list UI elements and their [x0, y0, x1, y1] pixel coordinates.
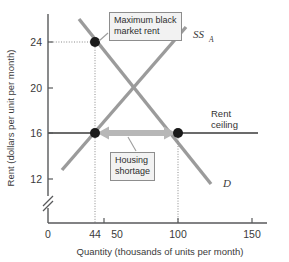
- y-tick-label-20: 20: [30, 82, 42, 94]
- y-tick-label-16: 16: [30, 127, 42, 139]
- point-quantity-demanded-100: [173, 128, 183, 138]
- x-tick-label-150: 150: [243, 228, 261, 240]
- x-tick-label-44: 44: [89, 228, 101, 240]
- supply-curve-label-subscript: A: [208, 35, 214, 44]
- rent-ceiling-label: Rent ceiling: [211, 108, 238, 131]
- demand-curve-label: D: [222, 177, 231, 189]
- y-axis-title: Rent (dollars per unit per month): [5, 50, 16, 187]
- leader-line-max-black-market: [99, 33, 108, 41]
- callout-housing-shortage: Housing shortage: [110, 152, 155, 181]
- rent-ceiling-chart: 24 20 16 12 0 44 50 100 150 Quantity (th…: [0, 0, 289, 262]
- callout-max-line2: market rent: [114, 26, 177, 37]
- rent-ceiling-label-line1: Rent: [211, 108, 238, 119]
- y-tick-label-24: 24: [30, 36, 42, 48]
- supply-curve-label: SS: [193, 28, 205, 40]
- callout-shortage-line1: Housing: [115, 155, 150, 166]
- callout-max-line1: Maximum black: [114, 15, 177, 26]
- supply-curve-ss-a: [62, 27, 186, 170]
- y-tick-label-12: 12: [30, 173, 42, 185]
- x-axis-title: Quantity (thousands of units per month): [77, 246, 244, 257]
- rent-ceiling-label-line2: ceiling: [211, 119, 238, 130]
- x-tick-label-100: 100: [169, 228, 187, 240]
- x-tick-label-0: 0: [45, 228, 51, 240]
- callout-shortage-line2: shortage: [115, 166, 150, 177]
- point-quantity-supplied-44: [90, 128, 100, 138]
- point-max-black-market-rent: [90, 37, 100, 47]
- x-tick-label-50: 50: [111, 228, 123, 240]
- callout-maximum-black-market-rent: Maximum black market rent: [109, 12, 182, 41]
- leader-line-housing-shortage: [128, 137, 136, 151]
- housing-shortage-arrow: [97, 127, 176, 140]
- y-axis-break-mark-1: [43, 196, 53, 206]
